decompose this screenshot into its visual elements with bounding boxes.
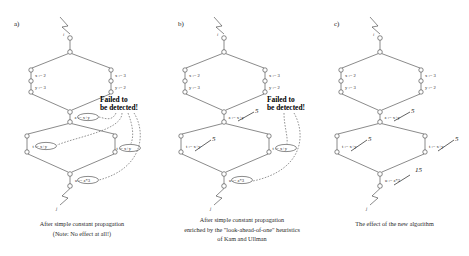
stmt-right-x: x := 3 (115, 73, 126, 78)
right-node-3 (263, 90, 267, 94)
caption-b-line3: of Kam and Ullman (164, 234, 320, 244)
stmt-left-x: x := 2 (345, 73, 356, 78)
mid-left-node-bottom (25, 150, 29, 154)
edge-head-to-right (72, 54, 110, 68)
right-node-1 (419, 68, 423, 72)
left-node-3 (29, 90, 33, 94)
panel-c: c) i x := 2 y := 3 x := 3 y := 2 z := x+… (320, 0, 469, 256)
stmt-mid-right-t: t := x+y (117, 146, 132, 151)
exit-node (222, 184, 227, 189)
mid-left-node-top (25, 134, 29, 138)
mid-right-node-top (113, 134, 117, 138)
branch-head-node (68, 50, 73, 55)
edge-head-to-right (226, 54, 264, 68)
edge-midright-to-bottom (72, 154, 114, 172)
caption-c: The effect of the new algorithm (320, 219, 469, 229)
caption-a: After simple constant propagation (Note:… (0, 219, 164, 238)
edge-left-to-merge (186, 94, 222, 110)
mid-right-node-top (423, 134, 427, 138)
merge-node-bottom (68, 120, 73, 125)
branch-head-node (378, 50, 383, 55)
edge-head-to-right (382, 54, 420, 68)
entry-squiggle-icon (60, 17, 70, 34)
stmt-left-x: x := 2 (189, 73, 200, 78)
mid-left-node-bottom (179, 150, 183, 154)
edge-merge-to-midright (226, 124, 268, 134)
exit-squiggle-icon (214, 189, 224, 206)
left-node-1 (183, 68, 187, 72)
value-mid-left-t: 5 (368, 135, 372, 143)
alert-line-2: be detected! (100, 103, 138, 112)
caption-b: After simple constant propagation enrich… (164, 215, 320, 244)
left-node-2 (339, 79, 343, 83)
exit-squiggle-icon (60, 189, 70, 206)
exit-label: j (55, 206, 58, 211)
stmt-mid-left-t: t := x+y (33, 144, 48, 149)
entry-node (68, 36, 73, 41)
merge-node-top (378, 110, 383, 115)
mid-right-node-bottom (423, 150, 427, 154)
edge-merge-to-midleft (182, 124, 222, 134)
pointer-to-mid-right-t (284, 113, 287, 144)
value-merge-z: 5 (255, 107, 259, 115)
stmt-bottom-u: u := z*3 (75, 178, 91, 183)
stmt-left-y: y := 3 (35, 85, 46, 90)
edge-midleft-to-bottom (28, 154, 68, 172)
alert-line-2: be detected! (267, 103, 305, 112)
caption-c-line1: The effect of the new algorithm (320, 219, 469, 229)
merge-node-top (68, 110, 73, 115)
caption-a-line1: After simple constant propagation (0, 219, 164, 229)
left-node-2 (29, 79, 33, 83)
caption-b-line2: enriched by the "look-ahead-of-one" heur… (164, 225, 320, 235)
edge-merge-to-midright (382, 124, 424, 134)
right-node-2 (109, 79, 113, 83)
exit-label: j (209, 206, 212, 211)
caption-b-line1: After simple constant propagation (164, 215, 320, 225)
edge-left-to-merge (342, 94, 378, 110)
entry-node (222, 36, 227, 41)
branch-head-node (222, 50, 227, 55)
entry-node (378, 36, 383, 41)
edge-head-to-left (186, 54, 222, 68)
mid-right-node-bottom (267, 150, 271, 154)
stmt-mid-right-t: t := x+y (273, 146, 288, 151)
entry-label: i (373, 32, 375, 37)
right-node-2 (263, 79, 267, 83)
edge-head-to-left (32, 54, 68, 68)
left-node-3 (183, 90, 187, 94)
left-node-3 (339, 90, 343, 94)
mid-left-node-bottom (335, 150, 339, 154)
merge-node-bottom (378, 120, 383, 125)
left-node-1 (29, 68, 33, 72)
edge-merge-to-midleft (28, 124, 68, 134)
edge-head-to-left (342, 54, 378, 68)
edge-midleft-to-bottom (182, 154, 222, 172)
exit-label: j (365, 206, 368, 211)
left-node-1 (339, 68, 343, 72)
edge-midright-to-bottom (226, 154, 268, 172)
edge-midleft-to-bottom (338, 154, 378, 172)
left-node-2 (183, 79, 187, 83)
exit-node (68, 184, 73, 189)
exit-squiggle-icon (370, 189, 380, 206)
stmt-right-x: x := 3 (269, 73, 280, 78)
merge-node-bottom (222, 120, 227, 125)
caption-a-line2: (Note: No effect at all!) (0, 229, 164, 239)
stmt-left-x: x := 2 (35, 73, 46, 78)
value-mid-left-t: 5 (212, 135, 216, 143)
cfg-graph-b: i x := 2 y := 3 x := 3 y := 2 z := x+y 5… (164, 0, 320, 215)
stmt-right-y: y := 2 (269, 85, 280, 90)
edge-merge-to-midleft (338, 124, 378, 134)
panel-a: a) i x := 2 y := 3 x := 3 y := 2 (0, 0, 164, 256)
entry-squiggle-icon (214, 17, 224, 34)
pointer-to-merge-z (99, 113, 116, 119)
mid-right-node-top (267, 134, 271, 138)
bottom-merge-node (68, 172, 73, 177)
stmt-left-y: y := 3 (345, 85, 356, 90)
panel-b: b) i x := 2 y := 3 x := 3 y := 2 z := x+… (164, 0, 320, 256)
cfg-graph-c: i x := 2 y := 3 x := 3 y := 2 z := x+y 5… (320, 0, 469, 215)
stmt-merge-z: z := x+y (75, 115, 91, 120)
bottom-merge-node (378, 172, 383, 177)
merge-node-top (222, 110, 227, 115)
right-node-3 (419, 90, 423, 94)
